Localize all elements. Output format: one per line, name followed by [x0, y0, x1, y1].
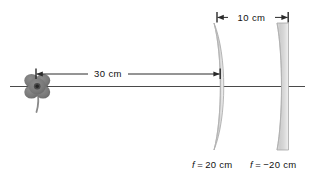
svg-text:f=20 cm: f=20 cm: [192, 159, 233, 170]
converging-focal-value: 20 cm: [205, 159, 232, 170]
object-flower: [24, 74, 50, 112]
diverging-focal-equals: =: [255, 159, 261, 170]
diverging-focal-symbol: f: [250, 159, 254, 170]
converging-lens-focal-label: f=20 cm: [192, 159, 233, 170]
dimension-30cm-label: 30 cm: [94, 68, 122, 79]
converging-focal-symbol: f: [192, 159, 196, 170]
dimension-30cm: 30 cm: [36, 68, 220, 79]
dimension-10cm-label: 10 cm: [238, 12, 266, 23]
flower-center: [34, 83, 41, 90]
optics-diagram-figure: 30 cm 10 cm f=20 cm f=−20 cm: [0, 0, 318, 180]
diverging-focal-value: −20 cm: [263, 159, 296, 170]
diverging-lens-focal-label: f=−20 cm: [250, 159, 296, 170]
svg-text:f=−20 cm: f=−20 cm: [250, 159, 296, 170]
dimension-10cm: 10 cm: [217, 12, 288, 23]
converging-focal-equals: =: [197, 159, 203, 170]
